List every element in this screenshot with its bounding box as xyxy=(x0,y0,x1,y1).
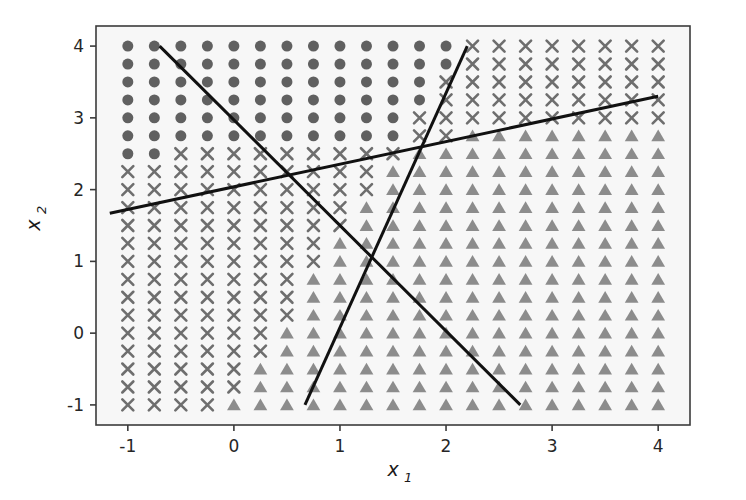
data-point-class-0 xyxy=(441,59,452,70)
data-point-class-0 xyxy=(122,148,133,159)
data-point-class-0 xyxy=(388,59,399,70)
data-point-class-0 xyxy=(122,59,133,70)
data-point-class-0 xyxy=(334,41,345,52)
data-point-class-0 xyxy=(281,130,292,141)
y-axis-title-main: x xyxy=(22,219,44,232)
data-point-class-0 xyxy=(149,148,160,159)
data-point-class-0 xyxy=(175,112,186,123)
data-point-class-0 xyxy=(414,41,425,52)
data-point-class-0 xyxy=(122,41,133,52)
data-point-class-0 xyxy=(414,76,425,87)
x-axis-title-sub: 1 xyxy=(404,470,412,485)
data-point-class-0 xyxy=(441,41,452,52)
scatter-plot-svg: -101234 -101234 x 1 x 2 xyxy=(0,0,746,500)
data-point-class-0 xyxy=(228,41,239,52)
x-tick-label: -1 xyxy=(119,436,136,456)
data-point-class-0 xyxy=(255,59,266,70)
data-point-class-0 xyxy=(202,130,213,141)
data-point-class-0 xyxy=(202,76,213,87)
data-point-class-0 xyxy=(281,59,292,70)
figure-canvas: -101234 -101234 x 1 x 2 xyxy=(0,0,746,500)
data-point-class-0 xyxy=(255,76,266,87)
data-point-class-0 xyxy=(149,130,160,141)
data-point-class-0 xyxy=(334,76,345,87)
data-point-class-0 xyxy=(388,94,399,105)
data-point-class-0 xyxy=(175,94,186,105)
data-point-class-0 xyxy=(334,112,345,123)
data-point-class-0 xyxy=(361,94,372,105)
x-tick-label: 0 xyxy=(228,436,239,456)
data-point-class-0 xyxy=(228,76,239,87)
data-point-class-0 xyxy=(255,112,266,123)
x-tick-label: 2 xyxy=(441,436,452,456)
data-point-class-0 xyxy=(308,94,319,105)
data-point-class-0 xyxy=(308,76,319,87)
data-point-class-0 xyxy=(361,76,372,87)
y-tick-label: 2 xyxy=(73,180,84,200)
data-point-class-0 xyxy=(122,112,133,123)
data-point-class-0 xyxy=(202,59,213,70)
data-point-class-0 xyxy=(202,112,213,123)
y-tick-label: 0 xyxy=(73,323,84,343)
x-tick-label: 3 xyxy=(547,436,558,456)
y-tick-label: 1 xyxy=(73,251,84,271)
data-point-class-0 xyxy=(255,130,266,141)
data-point-class-0 xyxy=(361,59,372,70)
data-point-class-0 xyxy=(149,94,160,105)
data-point-class-0 xyxy=(281,112,292,123)
data-point-class-0 xyxy=(228,94,239,105)
data-point-class-0 xyxy=(388,112,399,123)
y-tick-label: 3 xyxy=(73,108,84,128)
data-point-class-0 xyxy=(281,41,292,52)
data-point-class-0 xyxy=(388,130,399,141)
data-point-class-0 xyxy=(149,76,160,87)
data-point-class-0 xyxy=(281,94,292,105)
data-point-class-0 xyxy=(308,59,319,70)
data-point-class-0 xyxy=(175,76,186,87)
data-point-class-0 xyxy=(361,112,372,123)
data-point-class-0 xyxy=(175,130,186,141)
data-point-class-0 xyxy=(202,41,213,52)
data-point-class-0 xyxy=(149,41,160,52)
data-point-class-0 xyxy=(361,41,372,52)
data-point-class-0 xyxy=(308,112,319,123)
data-point-class-0 xyxy=(388,76,399,87)
data-point-class-0 xyxy=(149,59,160,70)
data-point-class-0 xyxy=(228,59,239,70)
data-point-class-0 xyxy=(308,41,319,52)
data-point-class-0 xyxy=(122,130,133,141)
data-point-class-0 xyxy=(175,41,186,52)
data-point-class-0 xyxy=(388,41,399,52)
data-point-class-0 xyxy=(122,76,133,87)
x-axis-title-main: x xyxy=(386,458,399,480)
data-point-class-0 xyxy=(228,130,239,141)
data-point-class-0 xyxy=(414,59,425,70)
data-point-class-0 xyxy=(149,112,160,123)
data-point-class-0 xyxy=(334,94,345,105)
x-tick-label: 4 xyxy=(653,436,664,456)
y-tick-label: -1 xyxy=(67,395,84,415)
data-point-class-0 xyxy=(122,94,133,105)
data-point-class-0 xyxy=(281,76,292,87)
data-point-class-0 xyxy=(308,130,319,141)
data-point-class-0 xyxy=(255,41,266,52)
x-tick-label: 1 xyxy=(335,436,346,456)
y-tick-label: 4 xyxy=(73,36,84,56)
data-point-class-0 xyxy=(334,59,345,70)
data-point-class-0 xyxy=(334,130,345,141)
data-point-class-0 xyxy=(255,94,266,105)
y-axis-title-sub: 2 xyxy=(34,206,49,214)
data-point-class-0 xyxy=(361,130,372,141)
data-point-class-0 xyxy=(414,94,425,105)
